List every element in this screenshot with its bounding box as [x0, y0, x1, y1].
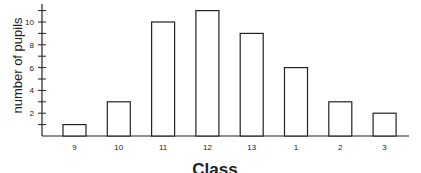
- y-tick-label: 6: [30, 64, 35, 73]
- bar: [63, 125, 86, 136]
- y-tick-label: 8: [30, 41, 35, 50]
- x-tick-label: 1: [294, 143, 299, 152]
- bar: [107, 102, 130, 136]
- y-tick-label: 2: [30, 109, 35, 118]
- bar: [329, 102, 352, 136]
- x-tick-label: 13: [247, 143, 256, 152]
- bar-chart: 910111213123 246810: [0, 0, 421, 173]
- bar: [152, 22, 175, 136]
- bar: [285, 68, 308, 136]
- x-tick-label: 12: [203, 143, 212, 152]
- bars: [63, 11, 396, 136]
- bar: [373, 113, 396, 136]
- x-tick-label: 10: [114, 143, 123, 152]
- x-tick-labels: 910111213123: [72, 143, 387, 152]
- bar: [196, 11, 219, 136]
- x-tick-label: 9: [72, 143, 77, 152]
- y-tick-label: 4: [30, 86, 35, 95]
- x-tick-label: 2: [338, 143, 343, 152]
- x-axis-title: Class: [175, 160, 255, 173]
- x-tick-label: 3: [382, 143, 387, 152]
- axes: [38, 0, 409, 136]
- y-tick-labels: 246810: [25, 18, 34, 118]
- bar: [240, 33, 263, 136]
- x-tick-label: 11: [159, 143, 168, 152]
- y-tick-label: 10: [25, 18, 34, 27]
